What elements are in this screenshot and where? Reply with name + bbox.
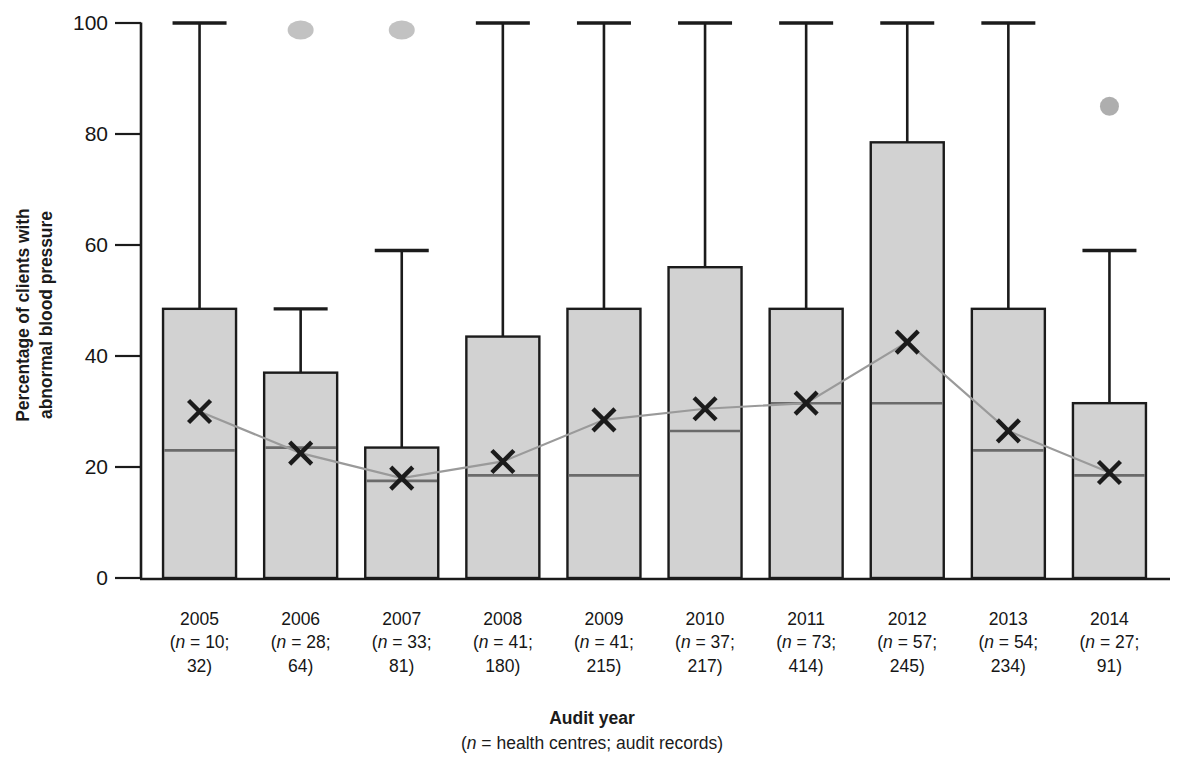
x-tick-n-centres: (n = 73; (756, 631, 857, 654)
bar-2011 (770, 309, 843, 578)
x-tick-year: 2009 (553, 608, 654, 631)
x-tick-2006: 2006(n = 28;64) (250, 608, 351, 678)
bar-2014 (1073, 403, 1146, 578)
x-tick-n-records: 215) (553, 655, 654, 678)
x-tick-year: 2008 (452, 608, 553, 631)
x-tick-2007: 2007(n = 33;81) (351, 608, 452, 678)
bar-2010 (669, 267, 742, 578)
outlier-point (389, 21, 415, 40)
y-axis-tick-label: 80 (62, 123, 108, 144)
x-tick-2010: 2010(n = 37;217) (654, 608, 755, 678)
x-tick-n-centres-value: = 41; (590, 632, 634, 652)
x-tick-2012: 2012(n = 57;245) (857, 608, 958, 678)
bar-2008 (466, 337, 539, 578)
x-tick-n-centres-value: = 37; (691, 632, 735, 652)
x-tick-n-centres: (n = 10; (149, 631, 250, 654)
outlier-point (288, 21, 314, 40)
y-axis-tick-label: 40 (62, 345, 108, 366)
x-tick-2011: 2011(n = 73;414) (756, 608, 857, 678)
bar-2006 (264, 373, 337, 578)
y-axis-tick-label: 60 (62, 234, 108, 255)
x-tick-year: 2010 (654, 608, 755, 631)
bar-2007 (365, 448, 438, 578)
x-tick-n-centres: (n = 57; (857, 631, 958, 654)
x-tick-n-centres: (n = 54; (958, 631, 1059, 654)
x-tick-year: 2007 (351, 608, 452, 631)
bar-2013 (972, 309, 1045, 578)
x-tick-n-records: 91) (1059, 655, 1160, 678)
x-tick-n-centres: (n = 41; (452, 631, 553, 654)
y-axis-tick-label: 100 (62, 12, 108, 33)
x-tick-n-centres-value: = 33; (387, 632, 431, 652)
bar-2012 (871, 142, 944, 578)
x-tick-n-centres: (n = 27; (1059, 631, 1160, 654)
x-tick-n-centres: (n = 41; (553, 631, 654, 654)
chart-figure: Percentage of clients with abnormal bloo… (0, 0, 1184, 772)
x-tick-n-centres-value: = 10; (185, 632, 229, 652)
x-axis-tick-labels: 2005(n = 10;32)2006(n = 28;64)2007(n = 3… (149, 608, 1160, 678)
x-tick-year: 2014 (1059, 608, 1160, 631)
x-tick-n-records: 245) (857, 655, 958, 678)
y-axis-tick-label: 20 (62, 456, 108, 477)
x-tick-2005: 2005(n = 10;32) (149, 608, 250, 678)
x-tick-n-records: 234) (958, 655, 1059, 678)
x-tick-n-records: 414) (756, 655, 857, 678)
x-tick-n-records: 32) (149, 655, 250, 678)
bar-2009 (567, 309, 640, 578)
outlier-point (1100, 97, 1119, 116)
x-tick-year: 2012 (857, 608, 958, 631)
x-tick-n-centres: (n = 33; (351, 631, 452, 654)
x-tick-year: 2005 (149, 608, 250, 631)
x-tick-n-records: 81) (351, 655, 452, 678)
x-tick-n-centres-value: = 41; (488, 632, 532, 652)
x-tick-n-records: 64) (250, 655, 351, 678)
x-tick-year: 2011 (756, 608, 857, 631)
x-tick-2008: 2008(n = 41;180) (452, 608, 553, 678)
x-tick-n-records: 217) (654, 655, 755, 678)
x-tick-2009: 2009(n = 41;215) (553, 608, 654, 678)
x-tick-n-centres-value: = 28; (286, 632, 330, 652)
x-tick-n-centres-value: = 27; (1095, 632, 1139, 652)
x-subtitle-text: = health centres; audit records) (476, 733, 723, 753)
x-tick-n-records: 180) (452, 655, 553, 678)
x-tick-year: 2006 (250, 608, 351, 631)
bar-2005 (163, 309, 236, 578)
x-axis-title: Audit year (0, 708, 1184, 730)
x-tick-n-centres-value: = 73; (792, 632, 836, 652)
x-tick-n-centres: (n = 28; (250, 631, 351, 654)
x-tick-n-centres: (n = 37; (654, 631, 755, 654)
x-tick-2014: 2014(n = 27;91) (1059, 608, 1160, 678)
x-tick-2013: 2013(n = 54;234) (958, 608, 1059, 678)
x-axis-subtitle: (n = health centres; audit records) (0, 733, 1184, 755)
y-axis-tick-label: 0 (62, 567, 108, 588)
x-tick-n-centres-value: = 54; (994, 632, 1038, 652)
x-tick-n-centres-value: = 57; (893, 632, 937, 652)
x-tick-year: 2013 (958, 608, 1059, 631)
